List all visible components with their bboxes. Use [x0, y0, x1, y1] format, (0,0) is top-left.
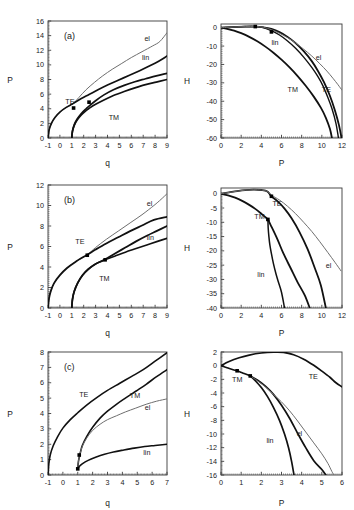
- x-tick-label: -1: [45, 311, 51, 320]
- x-tick-label: 2: [259, 478, 263, 487]
- y-tick-label: -14: [207, 457, 217, 466]
- x-tick-label: 1: [70, 311, 74, 320]
- y-tick-label: 8: [40, 75, 44, 84]
- curve-lin: [72, 238, 167, 308]
- curve-lin: [78, 444, 167, 469]
- x-tick-label: 3: [280, 478, 284, 487]
- x-tick-label: 0: [61, 478, 65, 487]
- y-tick-label: -15: [207, 232, 217, 241]
- x-tick-label: 0: [58, 311, 62, 320]
- curve-TE: [48, 217, 167, 308]
- data-marker: [270, 194, 274, 198]
- x-tick-label: 6: [340, 478, 344, 487]
- x-tick-label: 10: [318, 141, 326, 150]
- y-tick-label: 6: [40, 90, 44, 99]
- x-tick-label: -1: [45, 478, 51, 487]
- x-tick-label: 6: [129, 141, 133, 150]
- y-tick-label: -40: [207, 97, 217, 106]
- y-tick-label: 8: [40, 222, 44, 231]
- x-tick-label: -1: [45, 141, 51, 150]
- x-tick-label: 4: [259, 141, 263, 150]
- data-marker: [87, 100, 91, 104]
- curve-label: el: [316, 53, 322, 62]
- x-tick-label: 2: [239, 311, 243, 320]
- x-axis-title: q: [105, 328, 110, 338]
- x-tick-label: 8: [300, 311, 304, 320]
- x-tick-label: 3: [94, 311, 98, 320]
- y-tick-label: -20: [207, 246, 217, 255]
- curve-TE: [221, 27, 342, 138]
- panel-label: (c): [64, 362, 75, 372]
- curve-TM: [78, 370, 167, 469]
- x-tick-label: 1: [76, 478, 80, 487]
- chart-panel-panel-c-left: -101234567012345678qP(c)TETMellin: [0, 340, 177, 510]
- x-tick-label: 3: [106, 478, 110, 487]
- y-tick-label: 12: [36, 46, 44, 55]
- x-tick-label: 4: [120, 478, 124, 487]
- y-tick-label: 14: [36, 31, 44, 40]
- y-axis-title: P: [7, 409, 13, 419]
- x-tick-label: 10: [318, 311, 326, 320]
- data-marker: [235, 369, 239, 373]
- x-tick-label: 5: [117, 141, 121, 150]
- curve-el: [48, 194, 167, 308]
- y-tick-label: -30: [207, 78, 217, 87]
- y-tick-label: 5: [40, 394, 44, 403]
- panel-label: (b): [64, 195, 75, 205]
- x-tick-label: 2: [82, 141, 86, 150]
- y-tick-label: 10: [36, 201, 44, 210]
- y-tick-label: -10: [207, 218, 217, 227]
- x-tick-label: 7: [141, 141, 145, 150]
- curve-label: el: [297, 429, 303, 438]
- y-tick-label: 0: [213, 361, 217, 370]
- y-tick-label: 2: [40, 283, 44, 292]
- x-axis-title: P: [279, 158, 285, 168]
- x-axis-title: q: [105, 158, 110, 168]
- curve-label: el: [145, 403, 151, 412]
- y-axis-title: H: [184, 76, 190, 86]
- x-tick-label: 4: [106, 141, 110, 150]
- chart-panel-panel-b-left: -10123456789024681012qP(b)elTElinTM: [0, 170, 177, 340]
- data-marker: [253, 25, 257, 29]
- y-tick-label: 8: [40, 348, 44, 357]
- curve-label: lin: [142, 53, 149, 62]
- x-tick-label: 4: [300, 478, 304, 487]
- data-marker: [103, 258, 107, 262]
- y-tick-label: 7: [40, 363, 44, 372]
- curve-label: TM: [254, 212, 264, 221]
- curve-label: lin: [266, 436, 273, 445]
- curve-label: el: [147, 199, 153, 208]
- x-tick-label: 2: [82, 311, 86, 320]
- x-tick-label: 4: [106, 311, 110, 320]
- curve-label: lin: [271, 38, 278, 47]
- y-tick-label: -10: [207, 42, 217, 51]
- y-tick-label: 2: [40, 119, 44, 128]
- x-tick-label: 9: [165, 311, 169, 320]
- y-tick-label: -2: [211, 375, 217, 384]
- y-tick-label: -6: [211, 402, 217, 411]
- curve-label: TE: [322, 85, 331, 94]
- y-axis-title: P: [7, 242, 13, 252]
- data-marker: [72, 106, 76, 110]
- y-tick-label: -60: [207, 134, 217, 143]
- x-tick-label: 6: [280, 141, 284, 150]
- y-tick-label: 0: [213, 23, 217, 32]
- curve-label: TE: [272, 199, 281, 208]
- y-tick-label: 4: [40, 104, 44, 113]
- y-tick-label: -5: [211, 204, 217, 213]
- figure-container: -101234567890246810121416qP(a)ellinTETM0…: [0, 0, 354, 510]
- panel-label: (a): [64, 31, 75, 41]
- x-tick-label: 2: [91, 478, 95, 487]
- data-marker: [76, 467, 80, 471]
- y-tick-label: -16: [207, 471, 217, 480]
- x-tick-label: 12: [338, 141, 346, 150]
- y-tick-label: 1: [40, 455, 44, 464]
- x-tick-label: 5: [320, 478, 324, 487]
- y-tick-label: -35: [207, 289, 217, 298]
- x-tick-label: 1: [239, 478, 243, 487]
- x-tick-label: 6: [150, 478, 154, 487]
- x-tick-label: 0: [58, 141, 62, 150]
- x-tick-label: 4: [259, 311, 263, 320]
- y-tick-label: -10: [207, 430, 217, 439]
- y-tick-label: -25: [207, 261, 217, 270]
